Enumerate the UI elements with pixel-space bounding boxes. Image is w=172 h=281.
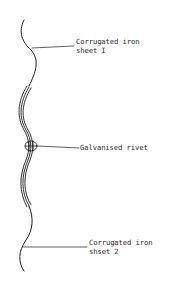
label-sheet-2-line-1: Corrugated iron: [89, 238, 152, 247]
overlap-line-inner: [23, 88, 33, 205]
label-rivet-line-1: Galvanised rivet: [80, 143, 148, 152]
label-rivet: Galvanised rivet: [80, 143, 148, 152]
leader-line-sheet-1: [32, 46, 74, 48]
label-sheet-1-line-2: sheet I: [76, 46, 139, 55]
label-sheet-2-line-2: shset 2: [89, 247, 152, 256]
label-sheet-1-line-1: Corrugated iron: [76, 37, 139, 46]
diagram-canvas: Corrugated iron sheet I Galvanised rivet…: [0, 0, 172, 281]
sheet-2-profile: [20, 206, 32, 271]
sheet-1-profile: [21, 20, 36, 86]
leader-line-rivet: [38, 146, 79, 148]
label-sheet-2: Corrugated iron shset 2: [89, 238, 152, 256]
label-sheet-1: Corrugated iron sheet I: [76, 37, 139, 55]
